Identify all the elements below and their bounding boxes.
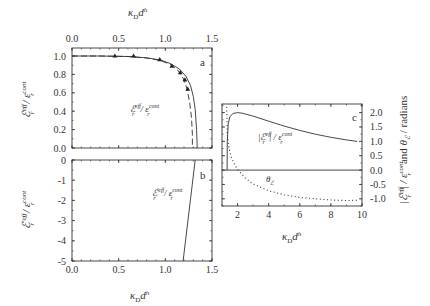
y-tick-label: 0.0: [370, 165, 383, 176]
y-tick-label: 0.5: [370, 150, 383, 161]
series-line: [227, 107, 358, 201]
x-tick-label: 2: [235, 209, 240, 220]
panel-b-annotation: ℰ'effr / εcontr: [152, 187, 183, 201]
panel-c-xlabel: κDdh: [282, 230, 302, 245]
data-marker-triangle: [113, 53, 118, 57]
series-line: [227, 113, 357, 171]
panel-c-curves: [222, 107, 362, 201]
x-tick-label: 0.0: [66, 33, 79, 44]
panel-a-curves: [72, 53, 197, 148]
series-line: [72, 56, 197, 148]
x-tick-label: 1.5: [206, 33, 219, 44]
x-tick-label: 6: [297, 209, 302, 220]
series-line: [183, 160, 195, 261]
x-tick-label: 0.5: [112, 264, 125, 275]
data-marker-triangle: [131, 53, 136, 57]
y-tick-label: -5: [58, 256, 66, 267]
y-tick-label: -2: [58, 195, 66, 206]
x-tick-label: 0.5: [112, 33, 125, 44]
panel-c-annotation-theta: θℰ: [266, 174, 275, 186]
panel-c-ylabel: |ℰeffr| / εcontr and θℰ / radians: [397, 96, 413, 205]
x-tick-label: 10: [357, 209, 367, 220]
data-marker-triangle: [157, 57, 162, 61]
y-tick-label: 0.0: [54, 143, 67, 154]
y-tick-label: 0.6: [54, 87, 67, 98]
x-tick-label: 0.0: [66, 264, 79, 275]
y-tick-label: 0.4: [54, 106, 67, 117]
y-tick-label: 1.0: [54, 51, 67, 62]
panel-b-ticks: 0.00.51.01.50-1-2-3-4-5: [58, 155, 219, 276]
panel-b: 0.00.51.01.50-1-2-3-4-5 b ℰ'effr / εcont…: [20, 155, 218, 305]
series-line: [72, 56, 192, 148]
y-tick-label: -4: [58, 235, 66, 246]
panel-c-ticks: 246810-1.0-0.50.00.51.01.52.0: [222, 104, 386, 220]
panel-a-ylabel: ℰeffr / εcontr: [20, 81, 36, 119]
panel-a-frame: [72, 48, 212, 148]
y-tick-label: 0.8: [54, 69, 67, 80]
x-tick-label: 8: [328, 209, 333, 220]
panel-a: 0.00.51.01.50.00.20.40.60.81.0 a ℰeffr /…: [20, 6, 218, 154]
y-tick-label: -1: [58, 175, 66, 186]
y-tick-label: 1.5: [370, 121, 383, 132]
x-tick-label: 4: [266, 209, 271, 220]
figure: 0.00.51.01.50.00.20.40.60.81.0 a ℰeffr /…: [0, 0, 430, 306]
y-tick-label: 0.2: [54, 124, 67, 135]
panel-c-frame: [222, 104, 362, 206]
panel-c-annotation-modulus: |ℰeffr| / εcontr: [258, 131, 293, 145]
y-tick-label: 0: [61, 155, 66, 166]
y-tick-label: 2.0: [370, 107, 383, 118]
panel-b-frame: [72, 160, 212, 261]
panel-b-xlabel: κDdh: [130, 289, 150, 304]
x-tick-label: 1.0: [159, 33, 172, 44]
panel-b-ylabel: ℰ'effr / εcontr: [20, 190, 36, 229]
panel-a-letter: a: [200, 56, 205, 68]
panel-c: 246810-1.0-0.50.00.51.01.52.0 c |ℰeffr| …: [222, 96, 413, 245]
y-tick-label: -0.5: [370, 179, 386, 190]
panel-a-top-xlabel: κDdh: [128, 6, 148, 21]
y-tick-label: -3: [58, 215, 66, 226]
y-tick-label: -1.0: [370, 193, 386, 204]
x-tick-label: 1.0: [159, 264, 172, 275]
panel-c-letter: c: [352, 111, 357, 123]
panel-b-letter: b: [200, 169, 206, 181]
y-tick-label: 1.0: [370, 136, 383, 147]
x-tick-label: 1.5: [206, 264, 219, 275]
panel-a-ticks: 0.00.51.01.50.00.20.40.60.81.0: [54, 33, 219, 154]
panel-a-annotation: ℰeffr / εcontr: [130, 103, 160, 117]
panel-b-curves: [183, 160, 195, 261]
